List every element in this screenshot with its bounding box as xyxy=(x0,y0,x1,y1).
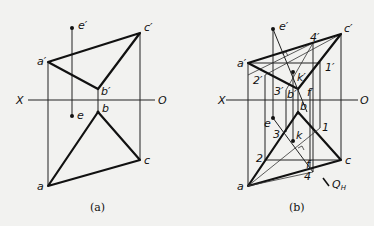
right-angle-mark-top xyxy=(298,146,304,150)
label-k: k xyxy=(296,129,303,142)
triangle-front-view xyxy=(48,33,140,89)
label-c-prime: c′ xyxy=(144,21,153,34)
label-3: 3 xyxy=(273,128,280,141)
label-2: 2 xyxy=(256,152,263,165)
label-c: c xyxy=(345,154,351,167)
point-k xyxy=(291,139,295,143)
label-c: c xyxy=(144,154,150,167)
label-1: 1 xyxy=(322,121,329,134)
point-b xyxy=(97,111,100,114)
label-e-prime: e′ xyxy=(78,19,88,32)
label-plane-q: QH xyxy=(332,178,347,192)
label-a: a xyxy=(237,180,244,193)
label-e: e xyxy=(77,109,84,122)
label-4-prime: 4′ xyxy=(310,31,320,44)
label-a-prime: a′ xyxy=(37,55,47,68)
label-a: a xyxy=(37,180,44,193)
label-f-prime: f′ xyxy=(307,86,314,99)
label-1-prime: 1′ xyxy=(325,61,335,74)
caption-b: (b) xyxy=(289,201,305,214)
plane-trace-mark xyxy=(323,178,329,186)
label-b-prime: b′ xyxy=(287,88,297,101)
triangle-top-view xyxy=(48,112,140,186)
label-k-prime: k′ xyxy=(297,71,306,84)
label-b: b xyxy=(300,100,307,113)
label-e-prime: e′ xyxy=(279,20,289,33)
label-b: b xyxy=(102,102,109,115)
label-3-prime: 3′ xyxy=(274,85,284,98)
label-c-prime: c′ xyxy=(344,22,353,35)
point-e xyxy=(271,116,275,120)
point-e xyxy=(70,114,74,118)
axis-label-x: X xyxy=(217,94,226,107)
figure-a: X O e′ c′ a′ b′ b e c a (a) xyxy=(15,19,167,214)
figure-b: X O e′ c′ xyxy=(217,20,369,214)
axis-label-o: O xyxy=(158,94,167,107)
point-e-prime xyxy=(271,27,275,31)
diagram-canvas: X O e′ c′ a′ b′ b e c a (a) X O xyxy=(0,0,374,226)
label-a-prime: a′ xyxy=(237,57,247,70)
axis-label-o: O xyxy=(360,94,369,107)
caption-a: (a) xyxy=(90,201,105,214)
label-plane-q-subscript: H xyxy=(341,184,347,192)
point-e-prime xyxy=(70,26,74,30)
label-e: e xyxy=(264,117,271,130)
label-plane-q-main: Q xyxy=(332,178,341,191)
point-k-prime xyxy=(291,70,295,74)
label-4: 4 xyxy=(304,170,311,183)
axis-label-x: X xyxy=(15,94,24,107)
label-b-prime: b′ xyxy=(101,85,111,98)
label-2-prime: 2′ xyxy=(253,74,263,87)
